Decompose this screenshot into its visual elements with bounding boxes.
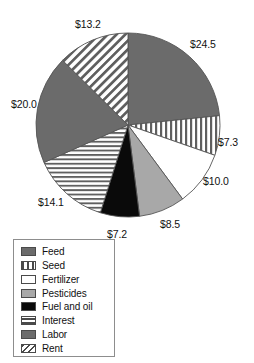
- legend-swatch-icon: [21, 275, 36, 284]
- pie-slice-value-label: $10.0: [203, 175, 229, 187]
- legend-swatch-icon: [21, 302, 36, 311]
- legend-swatch-icon: [21, 261, 36, 270]
- pie-slice-value-label: $8.5: [160, 218, 180, 230]
- legend-item-label: Labor: [42, 329, 67, 340]
- legend-item[interactable]: Pesticides: [21, 286, 114, 300]
- pie-slice-value-label: $7.3: [218, 136, 238, 148]
- legend-item-label: Fertilizer: [42, 274, 79, 285]
- chart-legend: FeedSeedFertilizerPesticidesFuel and oil…: [13, 239, 115, 357]
- legend-swatch-icon: [21, 344, 36, 353]
- legend-item[interactable]: Feed: [21, 245, 114, 259]
- legend-item-label: Fuel and oil: [42, 301, 93, 312]
- pie-slices-group: [36, 33, 220, 217]
- legend-item-label: Interest: [42, 315, 75, 326]
- legend-item[interactable]: Labor: [21, 328, 114, 342]
- legend-item-label: Rent: [42, 343, 63, 354]
- legend-item[interactable]: Interest: [21, 314, 114, 328]
- legend-item-label: Feed: [42, 246, 64, 257]
- pie-slice-value-label: $13.2: [75, 18, 101, 30]
- legend-swatch-icon: [21, 247, 36, 256]
- legend-item[interactable]: Seed: [21, 259, 114, 273]
- pie-slice-value-label: $14.1: [38, 196, 64, 208]
- legend-item[interactable]: Fuel and oil: [21, 300, 114, 314]
- legend-item[interactable]: Rent: [21, 341, 114, 355]
- legend-swatch-icon: [21, 330, 36, 339]
- legend-item-label: Pesticides: [42, 288, 87, 299]
- legend-swatch-icon: [21, 289, 36, 298]
- legend-item[interactable]: Fertilizer: [21, 273, 114, 287]
- pie-chart-figure: $24.5$7.3$10.0$8.5$7.2$14.1$20.0$13.2 Fe…: [0, 0, 254, 363]
- pie-slice-value-label: $24.5: [190, 38, 216, 50]
- legend-item-label: Seed: [42, 260, 65, 271]
- legend-swatch-icon: [21, 316, 36, 325]
- pie-slice-value-label: $20.0: [11, 98, 37, 110]
